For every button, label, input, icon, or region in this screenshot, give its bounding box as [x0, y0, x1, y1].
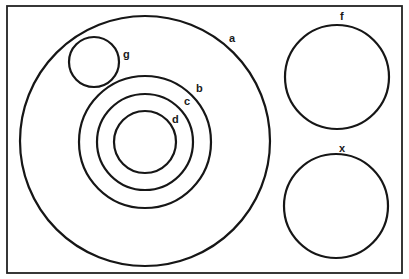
- label-b: b: [196, 82, 203, 94]
- label-c: c: [184, 95, 190, 107]
- label-x: x: [339, 142, 346, 154]
- euler-diagram: a b c d g f x: [0, 0, 409, 279]
- universe-frame: [7, 6, 402, 273]
- label-d: d: [172, 113, 179, 125]
- label-g: g: [123, 48, 130, 60]
- label-f: f: [340, 10, 344, 22]
- label-a: a: [229, 32, 236, 44]
